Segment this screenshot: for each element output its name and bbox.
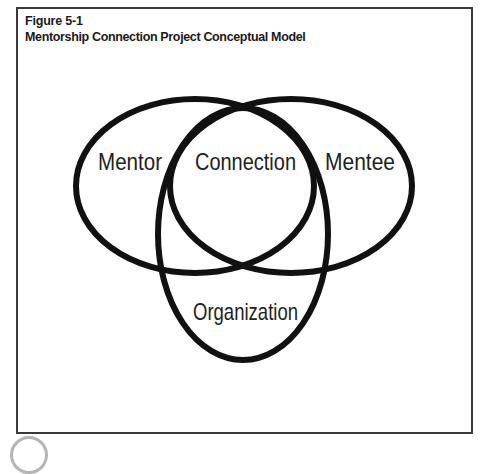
organization-label: Organization bbox=[193, 298, 298, 325]
connection-label: Connection bbox=[195, 148, 296, 175]
mentee-ellipse bbox=[170, 99, 412, 273]
page-marker-circle-icon bbox=[10, 436, 48, 474]
mentor-label: Mentor bbox=[98, 148, 162, 175]
mentee-label: Mentee bbox=[325, 148, 395, 175]
mentor-ellipse bbox=[76, 99, 314, 273]
